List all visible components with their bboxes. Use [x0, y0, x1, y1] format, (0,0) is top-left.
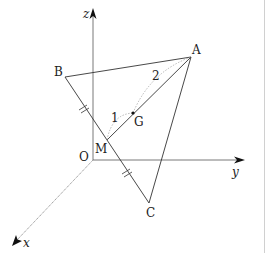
point-c-label: C — [146, 206, 155, 220]
segment-ab — [65, 57, 191, 77]
x-axis — [17, 160, 93, 240]
ratio-label-mg: 1 — [111, 111, 119, 125]
point-m-label: M — [95, 142, 107, 156]
ratio-label-ga: 2 — [152, 69, 160, 83]
point-a-label: A — [191, 43, 201, 57]
geometry-diagram: z y x O A B C M G 1 2 — [0, 0, 266, 253]
triangle-abc — [65, 57, 191, 203]
x-axis-label: x — [23, 236, 30, 250]
point-b-label: B — [54, 65, 63, 79]
median-am — [107, 57, 191, 140]
axes — [12, 8, 245, 246]
origin-label: O — [79, 150, 89, 164]
x-arrow-icon — [12, 235, 22, 246]
point-g-label: G — [134, 115, 144, 129]
y-axis-label: y — [231, 165, 239, 179]
z-axis-label: z — [82, 7, 90, 21]
